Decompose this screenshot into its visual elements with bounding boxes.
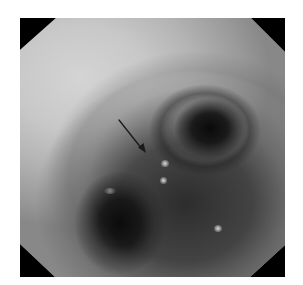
airway-ring-shadow [20, 18, 285, 277]
endoscopy-image-frame [20, 18, 285, 277]
specular-highlight [104, 188, 116, 194]
page [0, 0, 303, 285]
specular-highlight [214, 225, 222, 232]
specular-highlight [160, 177, 167, 184]
endoscopy-image [20, 18, 285, 277]
specular-highlight [161, 160, 169, 167]
